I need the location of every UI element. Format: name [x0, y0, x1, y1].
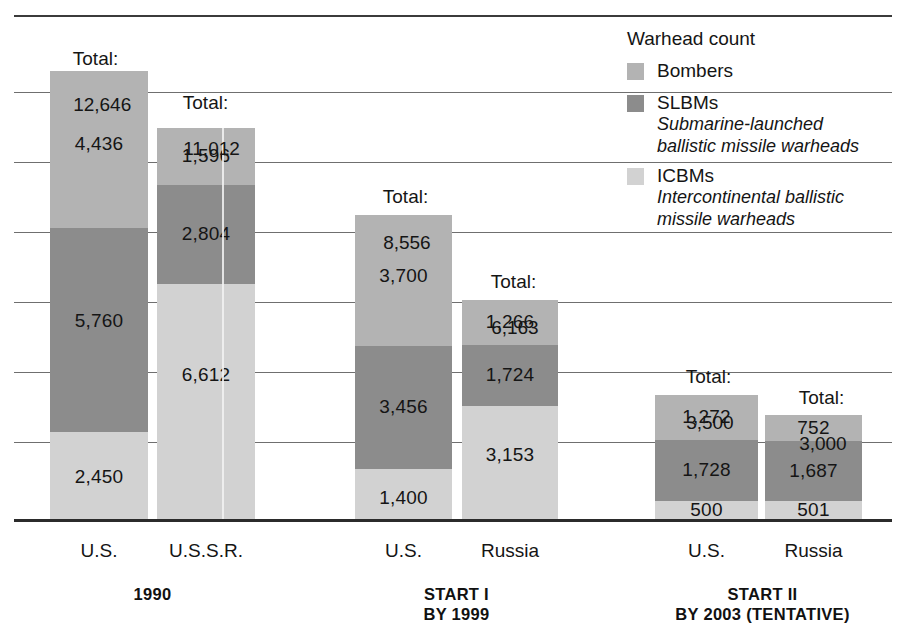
group-label-start1: START I BY 1999	[355, 584, 558, 624]
segment-slbms: 3,456	[355, 346, 452, 469]
segment-icbms: 6,612	[157, 284, 255, 519]
segment-icbms: 3,153	[462, 406, 558, 519]
segment-icbms: 1,400	[355, 469, 452, 519]
total-prefix: Total:	[383, 186, 428, 207]
group-label-start2: START II BY 2003 (TENTATIVE)	[640, 584, 885, 624]
segment-value-icbms: 3,153	[462, 444, 558, 466]
bar-total-us-1990: Total: 12,646	[52, 24, 131, 139]
bar-total-us-start1: Total: 8,556	[362, 162, 431, 277]
legend-row-icbms: ICBMs Intercontinental ballistic missile…	[627, 164, 899, 230]
total-prefix: Total:	[686, 366, 731, 387]
total-value: 12,646	[73, 94, 131, 115]
total-prefix: Total:	[73, 48, 118, 69]
category-label-us-start1: U.S.	[355, 540, 452, 562]
legend-label-icbms: ICBMs	[657, 164, 899, 187]
legend-title: Warhead count	[627, 28, 899, 50]
category-label-russia-start1: Russia	[462, 540, 558, 562]
total-value: 11,012	[183, 138, 240, 159]
segment-icbms: 500	[655, 501, 758, 519]
legend-row-bombers: Bombers	[627, 59, 899, 82]
axis-baseline	[14, 519, 892, 522]
total-value: 3,500	[686, 412, 734, 433]
total-value: 8,556	[383, 232, 431, 253]
segment-value-slbms: 5,760	[50, 310, 148, 332]
segment-icbms: 2,450	[50, 432, 148, 519]
category-label-us-1990: U.S.	[50, 540, 148, 562]
top-rule	[14, 15, 892, 17]
total-value: 3,000	[799, 433, 847, 454]
category-label-ussr-1990: U.S.S.R.	[157, 540, 255, 562]
legend-row-slbms: SLBMs Submarine-launched ballistic missi…	[627, 91, 899, 157]
legend-label-slbms: SLBMs	[657, 91, 899, 114]
segment-value-slbms: 3,456	[355, 396, 452, 418]
segment-value-slbms: 2,804	[157, 223, 255, 245]
group-label-1990: 1990	[50, 584, 255, 604]
category-label-russia-start2: Russia	[765, 540, 862, 562]
segment-value-icbms: 1,400	[355, 487, 452, 509]
total-prefix: Total:	[491, 271, 536, 292]
bar-total-us-start2: Total: 3,500	[665, 342, 734, 457]
segment-value-icbms: 500	[655, 499, 758, 521]
legend-sublabel-slbms: Submarine-launched ballistic missile war…	[657, 114, 899, 157]
segment-value-slbms: 1,724	[462, 364, 558, 386]
total-prefix: Total:	[799, 387, 844, 408]
category-label-us-start2: U.S.	[655, 540, 758, 562]
legend-label-bombers: Bombers	[657, 59, 899, 82]
bar-ussr-1990: 1,596 2,804 6,612	[157, 128, 255, 519]
segment-value-icbms: 501	[765, 499, 862, 521]
legend-swatch-bombers-icon	[627, 63, 644, 80]
segment-icbms: 501	[765, 501, 862, 519]
segment-slbms: 2,804	[157, 185, 255, 284]
segment-value-icbms: 2,450	[50, 466, 148, 488]
legend-swatch-slbms-icon	[627, 95, 644, 112]
legend-sublabel-icbms: Intercontinental ballistic missile warhe…	[657, 187, 899, 230]
chart-legend: Warhead count Bombers SLBMs Submarine-la…	[627, 28, 899, 234]
total-value: 6,163	[491, 317, 539, 338]
total-prefix: Total:	[183, 92, 228, 113]
segment-value-icbms: 6,612	[157, 364, 255, 386]
segment-slbms: 5,760	[50, 228, 148, 432]
bar-total-russia-start1: Total: 6,163	[470, 247, 539, 362]
bar-total-russia-start2: Total: 3,000	[778, 363, 847, 478]
segment-value-slbms: 1,728	[655, 459, 758, 481]
scan-artifact	[222, 128, 224, 519]
bar-total-ussr-1990: Total: 11,012	[162, 68, 240, 183]
legend-swatch-icbms-icon	[627, 168, 644, 185]
chart-canvas: 4,436 5,760 2,450 Total: 12,646 1,596 2,…	[0, 0, 904, 625]
